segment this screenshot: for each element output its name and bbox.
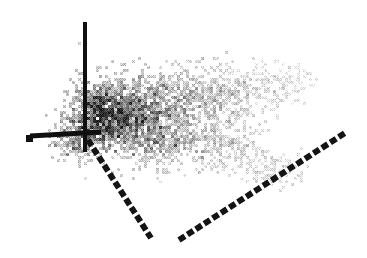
horizontal-axis-end-cap xyxy=(26,135,33,142)
axes-overlay xyxy=(0,0,367,258)
coordinate-axes xyxy=(26,22,345,240)
depth-axis-front-left xyxy=(88,140,151,238)
horizontal-left-axis xyxy=(30,132,101,136)
depth-axis-front-right xyxy=(179,133,345,240)
scatter-plot-figure: Low-resolution dithered grayscale 3D sca… xyxy=(0,0,367,258)
